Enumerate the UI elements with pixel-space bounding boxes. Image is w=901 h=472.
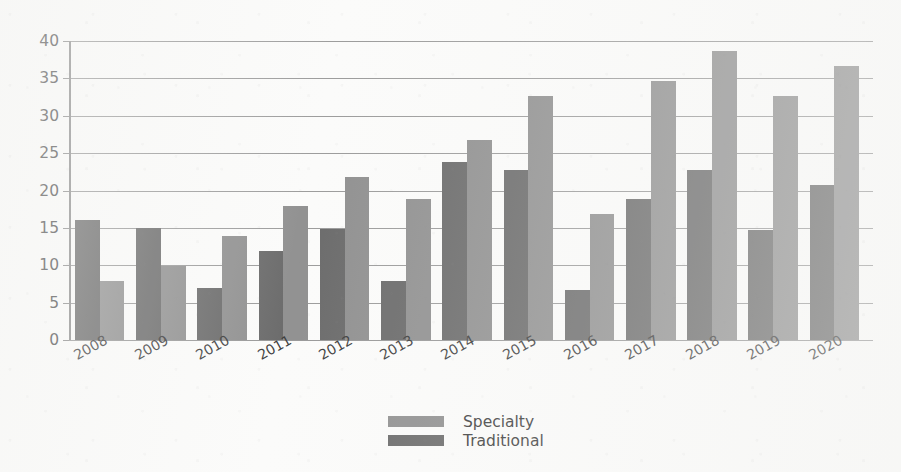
bar-group-2019: 2019 bbox=[748, 41, 798, 340]
bar-traditional-2008[interactable] bbox=[75, 220, 100, 340]
bar-specialty-2009[interactable] bbox=[161, 266, 186, 340]
legend-swatch-specialty bbox=[388, 416, 444, 427]
y-axis-tick-right bbox=[866, 265, 873, 266]
bar-group-2016: 2016 bbox=[565, 41, 615, 340]
y-axis-tick-right bbox=[866, 191, 873, 192]
plot-area: 0510152025303540200820092010201120122013… bbox=[70, 41, 866, 340]
bar-group-2018: 2018 bbox=[687, 41, 737, 340]
bar-group-2008: 2008 bbox=[75, 41, 125, 340]
bar-traditional-2019[interactable] bbox=[748, 230, 773, 340]
bar-specialty-2013[interactable] bbox=[406, 199, 431, 340]
bar-group-2011: 2011 bbox=[259, 41, 309, 340]
bar-group-2020: 2020 bbox=[810, 41, 860, 340]
bar-group-2015: 2015 bbox=[504, 41, 554, 340]
y-axis-label: 10 bbox=[39, 256, 59, 274]
legend-item-specialty[interactable]: Specialty bbox=[388, 412, 544, 431]
y-axis-label: 5 bbox=[49, 293, 59, 311]
y-axis-label: 35 bbox=[39, 69, 59, 87]
y-axis-line bbox=[69, 41, 71, 340]
y-axis-label: 15 bbox=[39, 219, 59, 237]
y-axis-tick-right bbox=[866, 153, 873, 154]
y-axis-label: 20 bbox=[39, 181, 59, 199]
bar-specialty-2018[interactable] bbox=[712, 51, 737, 340]
bar-specialty-2016[interactable] bbox=[590, 214, 615, 340]
bar-traditional-2012[interactable] bbox=[320, 229, 345, 340]
bar-specialty-2017[interactable] bbox=[651, 81, 676, 340]
bar-traditional-2016[interactable] bbox=[565, 290, 590, 340]
bar-group-2013: 2013 bbox=[381, 41, 431, 340]
bar-group-2009: 2009 bbox=[136, 41, 186, 340]
legend-label-specialty: Specialty bbox=[463, 413, 534, 431]
bar-traditional-2009[interactable] bbox=[136, 228, 161, 340]
bar-traditional-2010[interactable] bbox=[197, 288, 222, 340]
y-axis-tick-right bbox=[866, 228, 873, 229]
bar-traditional-2011[interactable] bbox=[259, 251, 284, 340]
bar-group-2017: 2017 bbox=[626, 41, 676, 340]
chart-page: 0510152025303540200820092010201120122013… bbox=[0, 0, 901, 472]
bar-specialty-2014[interactable] bbox=[467, 140, 492, 340]
legend-label-traditional: Traditional bbox=[463, 432, 544, 450]
bar-traditional-2015[interactable] bbox=[504, 170, 529, 340]
y-axis-label: 30 bbox=[39, 106, 59, 124]
y-axis-label: 25 bbox=[39, 144, 59, 162]
y-axis-label: 40 bbox=[39, 32, 59, 50]
bar-traditional-2020[interactable] bbox=[810, 185, 835, 340]
bar-specialty-2015[interactable] bbox=[528, 96, 553, 340]
bar-traditional-2014[interactable] bbox=[442, 162, 467, 340]
y-axis-tick-right bbox=[866, 116, 873, 117]
y-axis-tick-right bbox=[866, 303, 873, 304]
bar-specialty-2020[interactable] bbox=[834, 66, 859, 340]
legend-swatch-traditional bbox=[388, 435, 444, 446]
y-axis-tick-right bbox=[866, 78, 873, 79]
bar-specialty-2012[interactable] bbox=[345, 177, 370, 340]
bar-group-2012: 2012 bbox=[320, 41, 370, 340]
bar-traditional-2018[interactable] bbox=[687, 170, 712, 340]
bar-traditional-2017[interactable] bbox=[626, 199, 651, 340]
bar-specialty-2008[interactable] bbox=[100, 281, 125, 340]
y-axis-tick-right bbox=[866, 41, 873, 42]
bar-group-2010: 2010 bbox=[197, 41, 247, 340]
bar-traditional-2013[interactable] bbox=[381, 281, 406, 340]
y-axis-label: 0 bbox=[49, 331, 59, 349]
bar-specialty-2019[interactable] bbox=[773, 96, 798, 340]
chart-legend: SpecialtyTraditional bbox=[388, 412, 544, 450]
bar-group-2014: 2014 bbox=[442, 41, 492, 340]
bar-specialty-2010[interactable] bbox=[222, 236, 247, 340]
bar-specialty-2011[interactable] bbox=[283, 206, 308, 340]
legend-item-traditional[interactable]: Traditional bbox=[388, 431, 544, 450]
